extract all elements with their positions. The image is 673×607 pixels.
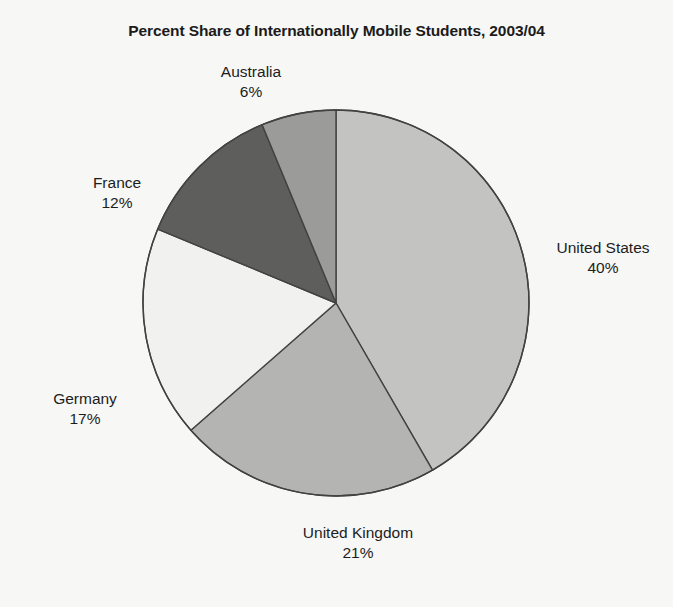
pie-chart-figure: Percent Share of Internationally Mobile … xyxy=(0,0,673,607)
pie-label-france-name: France xyxy=(62,173,172,193)
pie-label-australia-name: Australia xyxy=(196,62,306,82)
pie-label-united-kingdom-value: 21% xyxy=(268,543,448,563)
pie-label-australia-value: 6% xyxy=(196,82,306,102)
pie-label-france: France 12% xyxy=(62,173,172,213)
pie-label-united-kingdom-name: United Kingdom xyxy=(268,523,448,543)
pie-label-united-kingdom: United Kingdom 21% xyxy=(268,523,448,563)
pie-label-united-states-name: United States xyxy=(537,238,669,258)
pie-label-united-states-value: 40% xyxy=(537,258,669,278)
pie-chart-graphic xyxy=(0,0,673,607)
pie-label-australia: Australia 6% xyxy=(196,62,306,102)
pie-label-france-value: 12% xyxy=(62,193,172,213)
pie-label-united-states: United States 40% xyxy=(537,238,669,278)
pie-label-germany-value: 17% xyxy=(22,409,148,429)
pie-label-germany: Germany 17% xyxy=(22,389,148,429)
pie-label-germany-name: Germany xyxy=(22,389,148,409)
pie-slices-group xyxy=(143,110,529,496)
